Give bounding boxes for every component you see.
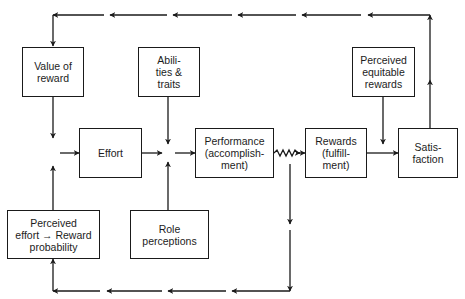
role-perceptions-label: Role perceptions bbox=[142, 223, 196, 247]
effort-box: Effort bbox=[79, 128, 142, 178]
satisfaction-box: Satis- faction bbox=[398, 128, 458, 178]
perceived-equitable-rewards-box: Perceived equitable rewards bbox=[352, 47, 415, 97]
performance-label: Performance (accomplish- ment) bbox=[204, 135, 264, 171]
satisfaction-label: Satis- faction bbox=[413, 141, 444, 165]
perceived-effort-reward-probability-box: Perceived effort → Reward probability bbox=[7, 210, 100, 259]
perceived-equitable-rewards-label: Perceived equitable rewards bbox=[360, 54, 407, 90]
value-of-reward-box: Value of reward bbox=[22, 47, 84, 97]
role-perceptions-box: Role perceptions bbox=[130, 210, 209, 259]
performance-to-rewards-wavy-arrow bbox=[274, 150, 300, 156]
rewards-box: Rewards (fulfill- ment) bbox=[305, 128, 367, 178]
perceived-effort-reward-probability-label: Perceived effort → Reward probability bbox=[15, 217, 91, 253]
value-of-reward-label: Value of reward bbox=[34, 60, 72, 84]
effort-label: Effort bbox=[98, 147, 123, 159]
performance-box: Performance (accomplish- ment) bbox=[195, 128, 274, 178]
abilities-traits-box: Abili- ties & traits bbox=[138, 47, 200, 97]
abilities-traits-label: Abili- ties & traits bbox=[156, 54, 182, 90]
rewards-label: Rewards (fulfill- ment) bbox=[315, 135, 356, 171]
